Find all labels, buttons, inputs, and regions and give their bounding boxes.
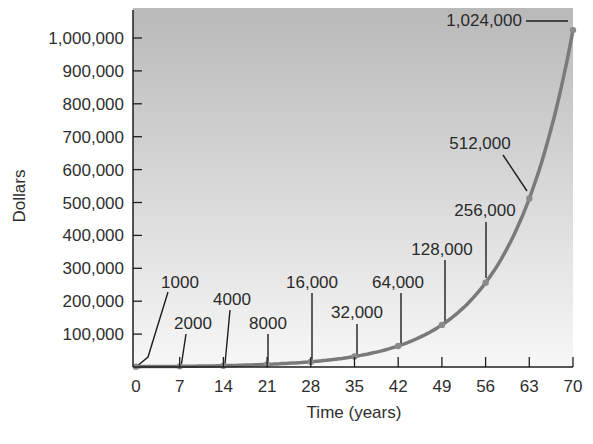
data-label: 128,000 [411, 240, 472, 259]
y-tick-label: 200,000 [63, 292, 124, 311]
y-tick-label: 600,000 [63, 161, 124, 180]
x-tick-label: 21 [258, 377, 277, 396]
data-point [526, 195, 532, 201]
data-label: 64,000 [372, 273, 424, 292]
x-tick-label: 63 [520, 377, 539, 396]
data-label: 1,024,000 [446, 11, 522, 30]
x-tick-label: 35 [345, 377, 364, 396]
x-tick-label: 28 [301, 377, 320, 396]
y-tick-label: 1,000,000 [48, 29, 124, 48]
x-tick-label: 56 [476, 377, 495, 396]
y-tick-label: 700,000 [63, 128, 124, 147]
x-tick-label: 14 [214, 377, 233, 396]
data-point [482, 280, 488, 286]
data-label: 16,000 [286, 273, 338, 292]
y-tick-label: 800,000 [63, 95, 124, 114]
x-tick-label: 42 [389, 377, 408, 396]
y-tick-label: 900,000 [63, 62, 124, 81]
data-point [570, 27, 576, 33]
data-label: 256,000 [454, 201, 515, 220]
y-tick-label: 300,000 [63, 259, 124, 278]
data-label: 4000 [213, 290, 251, 309]
x-tick-label: 49 [432, 377, 451, 396]
data-label: 2000 [174, 314, 212, 333]
y-tick-label: 100,000 [63, 325, 124, 344]
x-axis-title: Time (years) [307, 403, 402, 422]
y-tick-label: 500,000 [63, 194, 124, 213]
y-axis-ticks: 100,000200,000300,000400,000500,000600,0… [48, 29, 142, 344]
y-tick-label: 400,000 [63, 226, 124, 245]
data-label: 512,000 [449, 134, 510, 153]
data-label: 32,000 [331, 303, 383, 322]
data-point [439, 322, 445, 328]
exponential-growth-chart: 100020004000800016,00032,00064,000128,00… [0, 0, 593, 444]
data-label: 8000 [249, 314, 287, 333]
y-axis-title: Dollars [10, 170, 29, 223]
data-point [395, 343, 401, 349]
data-label: 1000 [161, 273, 199, 292]
x-tick-label: 7 [175, 377, 184, 396]
x-tick-label: 0 [131, 377, 140, 396]
x-tick-label: 70 [564, 377, 583, 396]
